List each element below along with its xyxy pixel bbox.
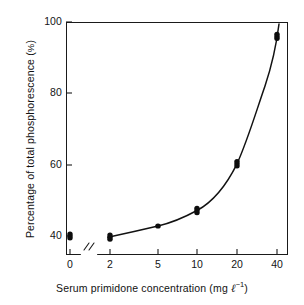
data-marker (107, 233, 112, 238)
data-marker (234, 159, 239, 164)
data-marker (194, 206, 199, 211)
axis-break-slash-1 (84, 243, 89, 250)
data-point-x10 (194, 206, 199, 216)
fitted-curve (108, 24, 279, 237)
data-point-x40 (274, 32, 279, 41)
x-axis-break-marker (82, 243, 96, 255)
x-axis-ticks (70, 249, 277, 255)
data-marker (274, 32, 279, 37)
data-marker (67, 231, 72, 236)
axis-break-slash-2 (89, 243, 94, 250)
data-point-x5 (155, 223, 161, 228)
chart-figure: 100 80 60 40 0 2 5 10 20 40 Percentage o… (0, 0, 304, 305)
data-marker (155, 223, 161, 228)
data-point-x0 (67, 231, 72, 240)
y-axis-ticks (66, 22, 72, 236)
chart-vector-layer (0, 0, 304, 305)
data-point-x2 (107, 233, 112, 242)
data-point-x20 (234, 159, 239, 169)
